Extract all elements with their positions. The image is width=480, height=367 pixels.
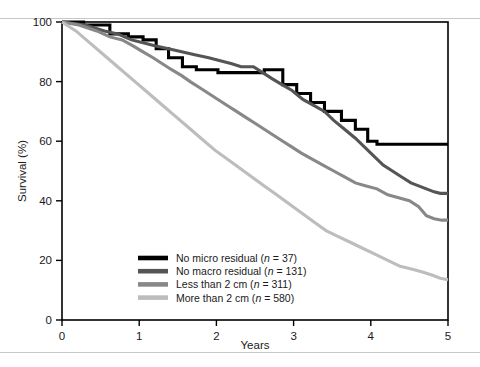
y-tick-label: 20 [39, 254, 52, 266]
x-tick-label: 3 [290, 330, 296, 342]
y-tick-label: 60 [39, 135, 52, 147]
chart-legend: No micro residual (n = 37)No macro resid… [138, 252, 306, 304]
legend-label: No macro residual (n = 131) [176, 265, 306, 277]
x-tick-label: 4 [368, 330, 375, 342]
figure-container: 020406080100 012345 Survival (%) Years N… [0, 0, 480, 367]
x-axis-title: Years [241, 339, 270, 351]
y-tick-label: 40 [39, 195, 52, 207]
legend-label: More than 2 cm (n = 580) [176, 292, 294, 304]
x-tick-label: 1 [136, 330, 142, 342]
survival-curve-4 [62, 22, 448, 280]
y-axis-tick-labels: 020406080100 [33, 16, 52, 326]
legend-label: No micro residual (n = 37) [176, 252, 297, 264]
survival-curve-3 [62, 22, 448, 220]
y-axis-title: Survival (%) [16, 140, 28, 202]
x-tick-label: 5 [445, 330, 451, 342]
x-tick-label: 2 [213, 330, 219, 342]
survival-curves [62, 22, 448, 280]
x-axis-ticks [62, 320, 448, 326]
y-tick-label: 80 [39, 76, 52, 88]
x-tick-label: 0 [59, 330, 65, 342]
survival-curve-2 [62, 22, 448, 193]
y-tick-label: 0 [46, 314, 52, 326]
survival-chart: 020406080100 012345 Survival (%) Years N… [0, 0, 480, 367]
legend-label: Less than 2 cm (n = 311) [176, 278, 292, 290]
y-axis-ticks [56, 22, 62, 320]
y-tick-label: 100 [33, 16, 52, 28]
